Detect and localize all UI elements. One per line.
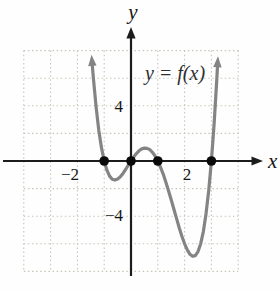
curve-left-arrow-icon [87,55,96,67]
function-curve [87,55,222,257]
y-tick-4: 4 [115,97,124,116]
x-intercept-dot [207,156,217,166]
axes [3,27,263,276]
x-tick-2: 2 [183,165,192,184]
x-tick-neg2: −2 [61,165,79,184]
x-axis-arrow-icon [252,156,264,165]
x-axis-label: x [267,149,278,173]
x-intercept-dot [126,156,136,166]
curve-right-arrow-icon [213,56,222,67]
equation-label: y = f(x) [143,62,205,85]
graph-canvas: y x y = f(x) 4 −4 −2 2 [0,0,280,291]
y-tick-neg4: −4 [105,206,124,225]
x-intercept-dot [99,156,109,166]
polynomial-graph-figure: y x y = f(x) 4 −4 −2 2 [0,0,280,291]
x-intercept-dot [153,156,163,166]
y-axis-label: y [126,0,138,24]
y-axis-arrow-icon [126,27,135,39]
